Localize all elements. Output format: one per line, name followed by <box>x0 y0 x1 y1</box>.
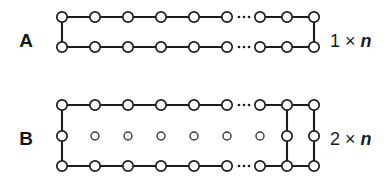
panel-b-nodes <box>57 100 319 171</box>
graph-vertex <box>222 100 232 110</box>
graph-vertex <box>255 100 265 110</box>
graph-vertex <box>255 12 265 22</box>
graph-vertex <box>156 12 166 22</box>
graph-vertex <box>90 42 100 52</box>
graph-vertex <box>123 12 133 22</box>
graph-vertex <box>222 12 232 22</box>
ellipsis-dot <box>238 16 241 19</box>
graph-vertex <box>309 161 319 171</box>
ellipsis-dot <box>248 16 251 19</box>
size-label-text: 1 × <box>330 31 361 51</box>
graph-vertex <box>282 131 292 141</box>
ellipsis-dot <box>238 104 241 107</box>
graph-vertex <box>123 100 133 110</box>
panel-a-edges <box>62 17 314 47</box>
graph-vertex <box>90 161 100 171</box>
graph-vertex <box>189 12 199 22</box>
figure-canvas: A 1 × n B 2 × n <box>0 0 392 186</box>
graph-vertex-isolated <box>256 132 264 140</box>
graph-vertex-isolated <box>190 132 198 140</box>
graph-vertex-isolated <box>157 132 165 140</box>
graph-vertex <box>282 42 292 52</box>
graph-vertex-isolated <box>223 132 231 140</box>
ellipsis-dot <box>248 104 251 107</box>
panel-a: A 1 × n <box>19 12 371 52</box>
graph-vertex <box>57 42 67 52</box>
graph-vertex <box>309 131 319 141</box>
graph-vertex <box>57 131 67 141</box>
graph-vertex <box>123 42 133 52</box>
grid-graph-figure: A 1 × n B 2 × n <box>0 0 392 186</box>
graph-vertex <box>90 12 100 22</box>
ellipsis-dot <box>248 46 251 49</box>
ellipsis-dot <box>238 165 241 168</box>
graph-vertex <box>309 12 319 22</box>
graph-vertex <box>189 42 199 52</box>
ellipsis-dot <box>243 46 246 49</box>
panel-b-size-label: 2 × n <box>330 129 372 149</box>
graph-vertex <box>156 161 166 171</box>
graph-vertex <box>189 161 199 171</box>
panel-a-size-label: 1 × n <box>330 31 372 51</box>
ellipsis-dot <box>248 165 251 168</box>
size-label-variable: n <box>361 129 372 149</box>
graph-vertex <box>123 161 133 171</box>
panel-a-ellipsis <box>238 16 251 49</box>
graph-vertex-isolated <box>91 132 99 140</box>
graph-vertex <box>282 161 292 171</box>
panel-b: B 2 × n <box>19 100 371 171</box>
ellipsis-dot <box>243 16 246 19</box>
ellipsis-dot <box>243 165 246 168</box>
size-label-variable: n <box>361 31 372 51</box>
panel-b-ellipsis <box>238 104 251 168</box>
graph-vertex <box>282 12 292 22</box>
graph-vertex <box>57 161 67 171</box>
graph-vertex <box>282 100 292 110</box>
graph-vertex <box>57 100 67 110</box>
graph-vertex <box>156 42 166 52</box>
graph-vertex <box>156 100 166 110</box>
size-label-text: 2 × <box>330 129 361 149</box>
panel-b-edges <box>62 105 314 166</box>
graph-vertex <box>309 100 319 110</box>
graph-vertex <box>90 100 100 110</box>
graph-vertex <box>255 42 265 52</box>
graph-vertex <box>255 161 265 171</box>
ellipsis-dot <box>238 46 241 49</box>
graph-vertex <box>309 42 319 52</box>
graph-vertex <box>57 12 67 22</box>
graph-vertex <box>189 100 199 110</box>
graph-vertex <box>222 161 232 171</box>
graph-vertex <box>222 42 232 52</box>
ellipsis-dot <box>243 104 246 107</box>
graph-vertex-isolated <box>124 132 132 140</box>
panel-a-letter: A <box>19 30 33 51</box>
panel-b-letter: B <box>19 128 33 149</box>
